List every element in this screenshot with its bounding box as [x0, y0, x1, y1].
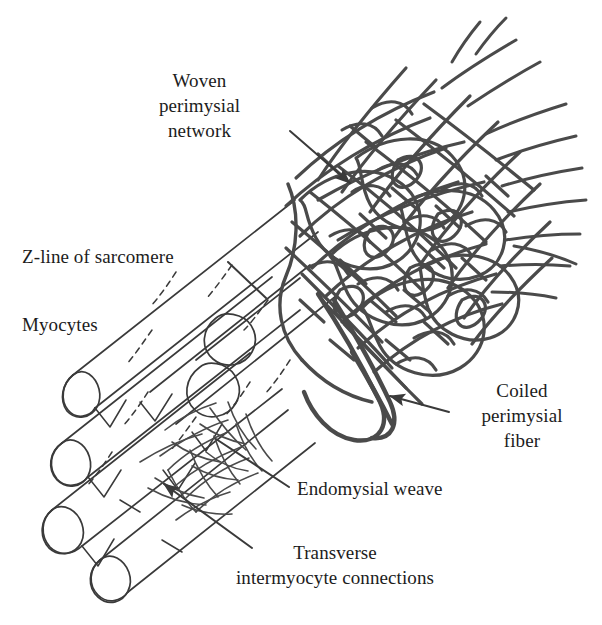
leader-coiled-perimysial-fiber [390, 396, 449, 412]
sheath-edge [280, 184, 372, 402]
label-woven-perimysial-network: Woven perimysial network [112, 68, 287, 143]
label-transverse-intermyocyte-connections: Transverse intermyocyte connections [185, 540, 485, 590]
label-z-line-of-sarcomere: Z-line of sarcomere [22, 244, 237, 269]
label-coiled-perimysial-fiber: Coiled perimysial fiber [452, 378, 592, 453]
label-endomysial-weave: Endomysial weave [297, 476, 502, 501]
figure-root: Woven perimysial network Z-line of sarco… [0, 0, 602, 625]
label-myocytes: Myocytes [22, 312, 152, 337]
leader-transverse-intermyocyte-connections [164, 484, 252, 548]
woven-perimysial-network [286, 68, 552, 404]
